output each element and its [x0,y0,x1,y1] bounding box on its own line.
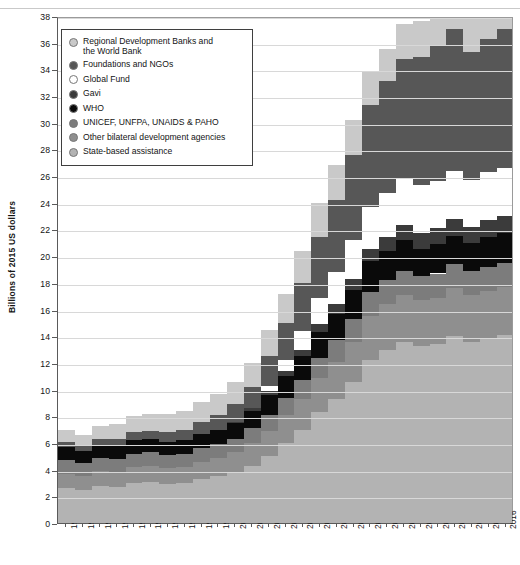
stack-segment [75,490,92,523]
stack-segment [126,483,143,523]
x-tick-mark [167,524,168,527]
stack-segment [497,29,512,168]
stack-segment [396,59,413,179]
stack-segment [328,314,345,341]
stack-segment [430,298,447,345]
y-axis-ticks: 02468101214161820222426283032343638 [0,0,57,565]
stack-segment [176,483,193,523]
stack-segment [75,463,92,476]
stack-segment [430,181,447,228]
stack-segment [58,474,75,489]
stack-segment [294,430,311,523]
stack-segment [463,342,480,523]
stack-segment [328,399,345,523]
stack-segment [362,71,379,106]
stack-segment [58,488,75,523]
stack-segment [109,459,126,472]
legend-item: Foundations and NGOs [69,59,245,71]
stack-segment [345,382,362,523]
stack-segment [142,414,159,431]
legend-swatch-icon [69,90,78,99]
stack-segment [261,391,278,395]
stack-segment [463,18,480,52]
stack-segment [142,466,159,482]
x-tick-mark [403,524,404,527]
stack-segment [58,430,75,442]
legend-swatch-icon [69,148,78,157]
stack-segment [159,442,176,455]
legend-item-label: Regional Development Banks andthe World … [83,36,213,57]
legend-item-label: Global Fund [83,74,130,84]
stack-segment [497,287,512,335]
legend-swatch-icon [69,119,78,128]
stack-segment [413,276,430,300]
stack-segment [463,271,480,295]
stack-segment [413,233,430,249]
stack-segment [244,387,261,408]
stack-segment [278,371,295,376]
stack-segment [294,399,311,430]
stack-segment [345,319,362,342]
stack-column [294,18,311,523]
stack-segment [311,332,328,357]
stack-column [261,18,278,523]
stack-column [463,18,480,523]
stack-segment [278,294,295,323]
stack-segment [294,350,311,357]
stacked-area-chart: Billions of 2015 US dollars 024681012141… [0,0,520,565]
legend-swatch-icon [69,75,78,84]
stack-column [497,18,512,523]
stack-segment [244,466,261,523]
y-tick-label: 34 [40,65,50,75]
stack-segment [126,467,143,483]
stack-column [396,18,413,523]
x-tick-mark [353,524,354,527]
stack-segment [261,356,278,385]
stack-segment [126,432,143,440]
x-tick-mark [65,524,66,527]
stack-segment [463,52,480,180]
stack-segment [193,402,210,422]
stack-segment [278,398,295,415]
stack-segment [362,105,379,206]
stack-segment [58,442,75,447]
stack-segment [430,344,447,523]
stack-segment [497,18,512,29]
x-tick-mark [319,524,320,527]
stack-segment [379,251,396,280]
stack-segment [109,446,126,459]
y-tick-label: 10 [40,386,50,396]
stack-segment [345,240,362,279]
stack-segment [362,316,379,360]
stack-segment [328,362,345,399]
stack-segment [294,331,311,350]
stack-segment [92,426,109,439]
stack-segment [294,380,311,399]
stack-column [446,18,463,523]
legend-swatch-icon [69,133,78,142]
stack-segment [244,411,261,428]
stack-segment [379,237,396,250]
stack-segment [446,171,463,219]
x-tick-mark [268,524,269,527]
legend-swatch-icon [69,38,78,47]
y-tick-label: 20 [40,252,50,262]
stack-segment [210,458,227,477]
stack-segment [497,233,512,262]
y-tick-label: 38 [40,12,50,22]
stack-segment [328,340,345,361]
stack-segment [244,408,261,411]
stack-segment [362,207,379,250]
x-tick-mark [454,524,455,527]
x-tick-mark [234,524,235,527]
stack-segment [261,456,278,523]
x-tick-mark [201,524,202,527]
x-tick-mark [133,524,134,527]
stack-segment [379,81,396,193]
stack-segment [261,330,278,357]
stack-segment [497,216,512,233]
stack-segment [396,240,413,271]
legend-item: Global Fund [69,74,245,86]
stack-segment [227,452,244,472]
y-tick-label: 18 [40,279,50,289]
